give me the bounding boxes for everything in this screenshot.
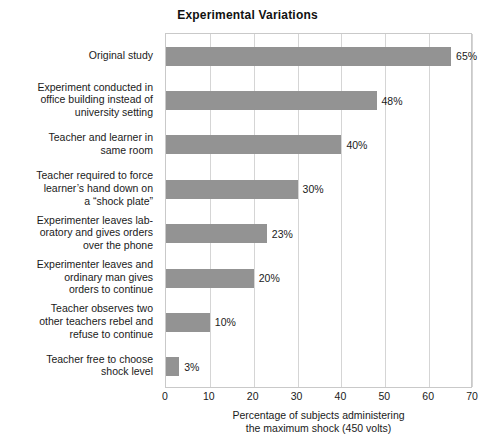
x-tick-label-20: 20 (247, 390, 259, 402)
x-axis-tick-labels: 010203040506070 (165, 390, 472, 404)
category-label: Teacher and learner insame room (0, 131, 153, 156)
bar-value-label: 65% (456, 50, 477, 62)
category-axis-labels: Original studyExperiment conducted inoff… (0, 33, 153, 388)
x-axis-title-line-1: Percentage of subjects administering (165, 409, 472, 422)
bar-value-label: 30% (303, 183, 324, 195)
chart-title: Experimental Variations (0, 8, 495, 22)
bar-value-label: 48% (382, 95, 403, 107)
category-label-line: Teacher free to choose (0, 353, 153, 366)
category-label-line: over the phone (0, 239, 153, 252)
gridline-70 (472, 34, 473, 387)
x-tick-label-70: 70 (466, 390, 478, 402)
bar-value-label: 20% (259, 272, 280, 284)
x-axis-title: Percentage of subjects administering the… (165, 409, 472, 435)
category-label: Teacher free to chooseshock level (0, 353, 153, 378)
category-label: Original study (0, 49, 153, 62)
category-label-line: university setting (0, 106, 153, 119)
experimental-variations-chart: Experimental Variations 65%48%40%30%23%2… (0, 0, 495, 444)
category-label-line: shock level (0, 366, 153, 379)
x-tick-label-60: 60 (422, 390, 434, 402)
category-label-line: oratory and gives orders (0, 226, 153, 239)
category-label-line: orders to continue (0, 283, 153, 296)
category-label-line: Original study (0, 49, 153, 62)
bar[interactable] (166, 313, 210, 332)
category-label-line: other teachers rebel and (0, 315, 153, 328)
bar-value-label: 23% (272, 228, 293, 240)
bar-row: 3% (166, 357, 471, 376)
x-tick-label-40: 40 (335, 390, 347, 402)
bar-value-label: 10% (215, 316, 236, 328)
x-tick-label-50: 50 (378, 390, 390, 402)
category-label: Teacher observes twoother teachers rebel… (0, 303, 153, 341)
bar-row: 10% (166, 313, 471, 332)
bar[interactable] (166, 135, 341, 154)
bar-row: 23% (166, 224, 471, 243)
bar-row: 40% (166, 135, 471, 154)
category-label-line: Experimenter leaves and (0, 258, 153, 271)
category-label-line: Teacher and learner in (0, 131, 153, 144)
bar-row: 65% (166, 47, 471, 66)
bar-row: 30% (166, 180, 471, 199)
bars-layer: 65%48%40%30%23%20%10%3% (166, 34, 471, 387)
x-axis-title-line-2: the maximum shock (450 volts) (165, 422, 472, 435)
x-tick-label-0: 0 (162, 390, 168, 402)
bar-row: 48% (166, 91, 471, 110)
bar[interactable] (166, 180, 298, 199)
category-label-line: Teacher observes two (0, 303, 153, 316)
plot-area: 65%48%40%30%23%20%10%3% (165, 33, 472, 388)
bar-value-label: 3% (184, 361, 199, 373)
category-label: Experimenter leaves andordinary man give… (0, 258, 153, 296)
category-label-line: Experimenter leaves lab- (0, 214, 153, 227)
category-label-line: learner’s hand down on (0, 182, 153, 195)
bar-row: 20% (166, 269, 471, 288)
category-label-line: office building instead of (0, 93, 153, 106)
category-label: Experimenter leaves lab-oratory and give… (0, 214, 153, 252)
category-label-line: Teacher required to force (0, 169, 153, 182)
category-label-line: ordinary man gives (0, 271, 153, 284)
bar[interactable] (166, 357, 179, 376)
bar[interactable] (166, 224, 267, 243)
x-tick-label-30: 30 (291, 390, 303, 402)
category-label-line: a “shock plate” (0, 195, 153, 208)
category-label-line: Experiment conducted in (0, 81, 153, 94)
bar[interactable] (166, 269, 254, 288)
category-label: Teacher required to forcelearner’s hand … (0, 169, 153, 207)
bar[interactable] (166, 47, 451, 66)
category-label-line: same room (0, 144, 153, 157)
x-tick-label-10: 10 (203, 390, 215, 402)
category-label: Experiment conducted inoffice building i… (0, 81, 153, 119)
category-label-line: refuse to continue (0, 328, 153, 341)
bar[interactable] (166, 91, 377, 110)
bar-value-label: 40% (346, 139, 367, 151)
